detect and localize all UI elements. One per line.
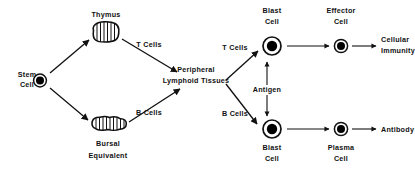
stem-cell-label-line1: Stem [18,70,37,79]
edge-label-antigen: Antigen [253,85,282,94]
blast-cell-top-label-line1: Blast [263,6,282,15]
plasma-cell-label-line1: Plasma [328,143,355,152]
edge-label-t-cells-right: T Cells [222,43,247,52]
bursal-label-line2: Equivalent [89,151,128,160]
edge-label-b-cells-right: B Cells [222,109,248,118]
effector-cell-label-line1: Effector [326,6,355,15]
cellular-immunity-label-line2: Immunity [381,46,415,55]
bursal-equivalent-organ-shape [92,114,126,133]
bursal-label-line1: Bursal [96,139,120,148]
antibody-label: Antibody [381,125,414,134]
immunology-flow-diagram: Stem Cell Thymus Bursal Equivalent T Cel… [0,0,415,169]
blast-cell-bottom-label-line2: Cell [265,154,279,163]
edge-label-t-cells-left: T Cells [136,40,161,49]
stem-cell-label-line2: Cell [20,80,34,89]
edge-bursal-to-peripheral [129,89,180,122]
peripheral-label-line1: Peripheral [177,65,215,74]
blast-cell-top-label-line2: Cell [265,17,279,26]
effector-cell-node [334,39,347,52]
peripheral-label-line2: Lymphoid Tissues [163,76,230,85]
edge-stem-to-bursal [50,88,88,120]
plasma-cell-node [334,122,347,135]
blast-cell-bottom-node [263,120,281,138]
edge-stem-to-thymus [50,40,89,73]
effector-cell-label-line2: Cell [334,17,348,26]
blast-cell-top-node [263,37,281,55]
thymus-organ-shape [93,20,119,44]
diagram-canvas: Stem Cell Thymus Bursal Equivalent T Cel… [0,0,415,169]
blast-cell-bottom-label-line1: Blast [263,143,282,152]
cellular-immunity-label-line1: Cellular [381,35,409,44]
edge-label-b-cells-left: B Cells [136,108,162,117]
thymus-label: Thymus [91,10,120,19]
plasma-cell-label-line2: Cell [334,154,348,163]
edge-peripheral-to-blast-top [226,51,258,80]
